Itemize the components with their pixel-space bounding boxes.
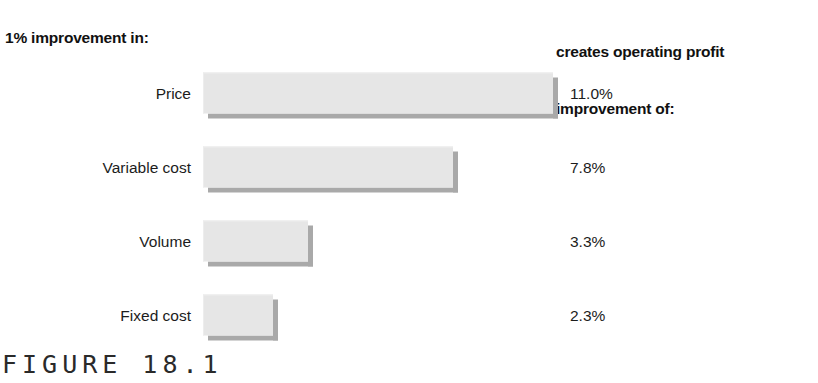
bar-shadow-right	[453, 152, 458, 193]
bar-variable-cost	[203, 147, 453, 188]
value-label: 11.0%	[570, 84, 613, 103]
figure-container: 1% improvement in: creates operating pro…	[0, 0, 818, 383]
bar-shadow-bottom	[208, 262, 313, 267]
bar-fill	[203, 147, 453, 188]
left-column-header: 1% improvement in:	[5, 28, 149, 47]
bar-price	[203, 73, 553, 114]
bar-chart-plot-area: Price 11.0% Variable cost 7.8% Volume	[0, 56, 818, 352]
category-label: Variable cost	[0, 158, 191, 177]
chart-row: Volume 3.3%	[0, 204, 818, 278]
chart-row: Fixed cost 2.3%	[0, 278, 818, 352]
category-label: Volume	[0, 232, 191, 251]
bar-shadow-right	[308, 226, 313, 267]
bar-volume	[203, 221, 308, 262]
bar-shadow-bottom	[208, 336, 278, 341]
category-label: Fixed cost	[0, 306, 191, 325]
chart-row: Variable cost 7.8%	[0, 130, 818, 204]
chart-row: Price 11.0%	[0, 56, 818, 130]
bar-shadow-bottom	[208, 114, 558, 119]
bar-shadow-right	[553, 78, 558, 119]
bar-fill	[203, 295, 273, 336]
value-label: 3.3%	[570, 232, 605, 251]
category-label: Price	[0, 84, 191, 103]
bar-shadow-bottom	[208, 188, 458, 193]
bar-fixed-cost	[203, 295, 273, 336]
value-label: 7.8%	[570, 158, 605, 177]
bar-fill	[203, 221, 308, 262]
figure-caption: FIGURE 18.1	[2, 352, 223, 378]
bar-fill	[203, 73, 553, 114]
bar-shadow-right	[273, 300, 278, 341]
value-label: 2.3%	[570, 306, 605, 325]
